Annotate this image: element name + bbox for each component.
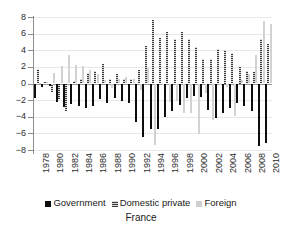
bar-group bbox=[106, 17, 113, 150]
bar-domestic-private bbox=[174, 39, 176, 83]
bar-government bbox=[193, 84, 195, 96]
bar-group bbox=[150, 17, 157, 150]
y-tick-mark bbox=[28, 150, 33, 151]
bar-group bbox=[229, 17, 236, 150]
x-tick-label: 1992 bbox=[143, 153, 152, 173]
bar-government bbox=[171, 84, 173, 111]
bar-group bbox=[135, 17, 142, 150]
x-tick-label: 1984 bbox=[85, 153, 94, 173]
legend-item-domestic-private: Domestic private bbox=[112, 197, 191, 208]
bar-government bbox=[258, 84, 260, 146]
bar-group bbox=[121, 17, 128, 150]
plot-area bbox=[34, 17, 272, 150]
bar-group bbox=[78, 17, 85, 150]
bar-government bbox=[34, 84, 36, 99]
bar-group bbox=[99, 17, 106, 150]
bar-government bbox=[128, 84, 130, 104]
bar-group bbox=[92, 17, 99, 150]
chart-legend: Government Domestic private Foreign bbox=[0, 197, 282, 208]
bar-group bbox=[200, 17, 207, 150]
legend-swatch-domestic-private-icon bbox=[112, 201, 118, 207]
legend-label-government: Government bbox=[53, 197, 105, 208]
bar-group bbox=[243, 17, 250, 150]
x-tick-label: 2010 bbox=[272, 153, 281, 173]
bar-group bbox=[207, 17, 214, 150]
legend-label-foreign: Foreign bbox=[204, 197, 236, 208]
x-tick-label: 1988 bbox=[114, 153, 123, 173]
y-tick-mark bbox=[28, 84, 33, 85]
bar-domestic-private bbox=[159, 38, 161, 84]
bar-group bbox=[186, 17, 193, 150]
chart-title: France bbox=[0, 212, 282, 224]
bar-government bbox=[157, 84, 159, 130]
bar-government bbox=[186, 84, 188, 99]
bar-group bbox=[70, 17, 77, 150]
bar-government bbox=[251, 84, 253, 111]
bar-group bbox=[128, 17, 135, 150]
y-tick-label: −2 bbox=[2, 96, 26, 105]
bar-government bbox=[243, 84, 245, 106]
bar-group bbox=[215, 17, 222, 150]
y-tick-mark bbox=[28, 100, 33, 101]
x-tick-label: 1994 bbox=[157, 153, 166, 173]
bar-domestic-private bbox=[181, 32, 183, 84]
bar-group bbox=[56, 17, 63, 150]
bar-group bbox=[236, 17, 243, 150]
y-tick-label: 6 bbox=[2, 29, 26, 38]
bar-domestic-private bbox=[51, 84, 53, 92]
y-tick-mark bbox=[28, 67, 33, 68]
bar-group bbox=[41, 17, 48, 150]
bar-domestic-private bbox=[188, 39, 190, 83]
bar-group bbox=[49, 17, 56, 150]
bar-government bbox=[222, 84, 224, 114]
x-tick-label: 1986 bbox=[99, 153, 108, 173]
bar-government bbox=[200, 84, 202, 97]
bar-group bbox=[34, 17, 41, 150]
x-tick-label: 1978 bbox=[42, 153, 51, 173]
bar-group bbox=[251, 17, 258, 150]
y-tick-mark bbox=[28, 17, 33, 18]
legend-label-domestic-private: Domestic private bbox=[120, 197, 191, 208]
bar-foreign bbox=[270, 24, 272, 83]
bar-domestic-private bbox=[202, 59, 204, 83]
bar-domestic-private bbox=[138, 70, 140, 83]
x-tick-label: 2004 bbox=[229, 153, 238, 173]
x-tick-label: 1982 bbox=[71, 153, 80, 173]
bar-government bbox=[92, 84, 94, 106]
bar-group bbox=[142, 17, 149, 150]
bar-domestic-private bbox=[166, 32, 168, 84]
bar-group bbox=[179, 17, 186, 150]
bar-government bbox=[179, 84, 181, 106]
y-tick-mark bbox=[28, 117, 33, 118]
y-tick-mark bbox=[28, 34, 33, 35]
bar-government bbox=[121, 84, 123, 101]
bar-group bbox=[193, 17, 200, 150]
bar-government bbox=[85, 84, 87, 108]
x-tick-label: 1998 bbox=[186, 153, 195, 173]
bar-domestic-private bbox=[195, 47, 197, 84]
bar-government bbox=[106, 84, 108, 104]
x-tick-label: 1980 bbox=[56, 153, 65, 173]
bar-group bbox=[171, 17, 178, 150]
x-tick-label: 1996 bbox=[171, 153, 180, 173]
x-tick-label: 2008 bbox=[258, 153, 267, 173]
bar-domestic-private bbox=[217, 49, 219, 83]
legend-swatch-government-icon bbox=[45, 201, 51, 207]
x-tick-label: 2002 bbox=[215, 153, 224, 173]
bar-government bbox=[142, 84, 144, 137]
bar-domestic-private bbox=[231, 53, 233, 84]
bar-group bbox=[63, 17, 70, 150]
bar-domestic-private bbox=[210, 59, 212, 84]
y-tick-label: 8 bbox=[2, 13, 26, 22]
legend-item-government: Government bbox=[45, 197, 105, 208]
bar-government bbox=[70, 84, 72, 105]
y-tick-mark bbox=[28, 133, 33, 134]
x-tick-label: 2006 bbox=[244, 153, 253, 173]
bar-domestic-private bbox=[58, 84, 60, 100]
bar-group bbox=[164, 17, 171, 150]
y-tick-label: 2 bbox=[2, 62, 26, 71]
y-tick-label: 0 bbox=[2, 79, 26, 88]
bar-group bbox=[258, 17, 265, 150]
legend-item-foreign: Foreign bbox=[196, 197, 236, 208]
bar-government bbox=[236, 84, 238, 104]
